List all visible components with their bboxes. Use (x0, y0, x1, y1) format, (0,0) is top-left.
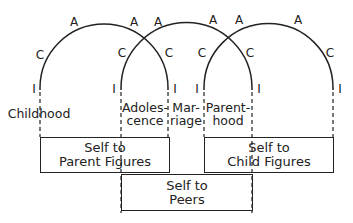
arc-1-C-right: C (118, 47, 126, 59)
arc-1-C-left: C (36, 49, 44, 61)
arc-2-C-right: C (246, 47, 254, 59)
arc-1-I-left: I (32, 83, 36, 95)
arc-1-I-right: I (173, 83, 177, 95)
box-self-to-peers: Self to Peers (121, 174, 253, 211)
arc-2-I-right: I (257, 83, 261, 95)
stage-adolescence: Adoles- cence (122, 101, 168, 127)
arc-1-C-right-outer: C (165, 47, 173, 59)
stage-parenthood: Parent- hood (206, 101, 251, 127)
arc-1-A-left: A (70, 16, 78, 28)
arc-2-I-left: I (112, 83, 116, 95)
box-self-to-child-figures: Self to Child Figures (204, 137, 334, 173)
arc-3-C-right: C (326, 47, 334, 59)
arc-2 (121, 23, 252, 90)
arc-3-I-right: I (338, 83, 342, 95)
arc-2-A-right: A (209, 14, 217, 26)
arc-1-A-right: A (130, 16, 138, 28)
stage-marriage: Mar- riage (170, 101, 202, 127)
arc-2-A-left: A (154, 16, 162, 28)
arc-3-C-left: C (198, 47, 206, 59)
stage-childhood: Childhood (8, 107, 71, 120)
arc-3-A-right: A (294, 14, 302, 26)
box-self-to-parent-figures: Self to Parent Figures (40, 137, 170, 173)
arc-3-A-left: A (235, 14, 243, 26)
arc-3-I-left: I (195, 83, 199, 95)
